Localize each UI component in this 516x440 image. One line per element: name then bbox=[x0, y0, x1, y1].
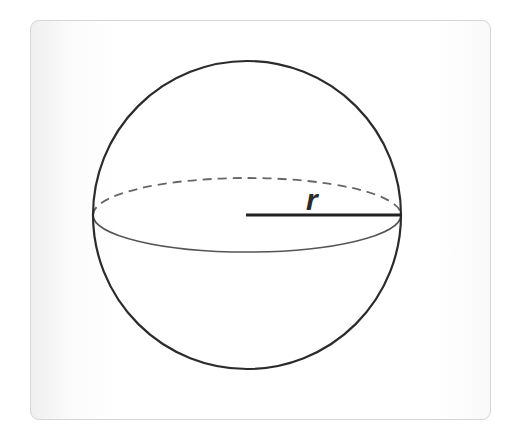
radius-label: r bbox=[306, 183, 320, 216]
equator-front bbox=[93, 215, 401, 252]
sphere-diagram: r bbox=[0, 0, 516, 440]
equator-back-dashed bbox=[93, 178, 401, 215]
